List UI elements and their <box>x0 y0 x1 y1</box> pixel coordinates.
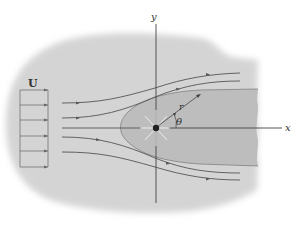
label-y-axis: y <box>150 11 157 22</box>
label-theta: θ <box>176 116 182 127</box>
label-x-axis: x <box>285 122 291 133</box>
label-radius: r <box>179 102 184 112</box>
label-uniform-flow: U <box>28 77 38 90</box>
diagram-canvas: U y x r θ <box>0 0 305 228</box>
flow-diagram: U y x r θ <box>0 0 305 228</box>
